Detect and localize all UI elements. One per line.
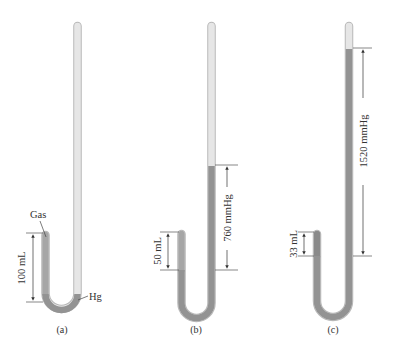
mercury-a — [46, 294, 78, 310]
j-tube-c-glass — [317, 26, 349, 317]
volume-label-c: 33 mL — [288, 230, 299, 258]
j-tube-a-glass — [46, 26, 78, 309]
j-tube-b-glass — [182, 26, 212, 318]
caption-a: (a) — [56, 324, 67, 336]
pressure-label-b: 760 mmHg — [222, 193, 233, 241]
caption-c: (c) — [327, 324, 338, 336]
panel-b: 50 mL 760 mmHg (b) — [152, 26, 238, 336]
pressure-label-c: 1520 mmHg — [358, 114, 369, 168]
gas-label: Gas — [30, 209, 46, 220]
panel-c: 33 mL 1520 mmHg (c) — [288, 26, 372, 336]
mercury-c — [317, 49, 349, 317]
panel-a: 100 mL Gas Hg (a) — [16, 26, 103, 336]
mercury-b — [182, 166, 212, 318]
volume-label-b: 50 mL — [152, 237, 163, 265]
mercury-label: Hg — [89, 291, 103, 302]
boyles-law-diagram: 100 mL Gas Hg (a) 50 mL 760 mmHg (b) — [0, 0, 393, 349]
volume-label-a: 100 mL — [16, 252, 27, 285]
caption-b: (b) — [190, 324, 202, 336]
